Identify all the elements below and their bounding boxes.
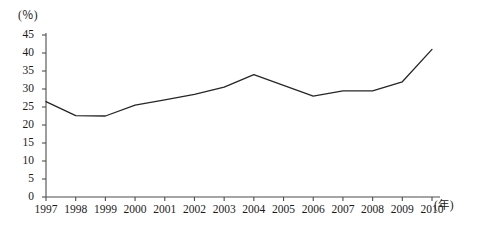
x-tick-label: 2000 [124, 204, 147, 216]
y-axis [42, 33, 46, 197]
chart-plot-area [0, 0, 478, 230]
x-tick-label: 2006 [302, 204, 325, 216]
x-axis [46, 197, 440, 201]
y-tick-label: 30 [12, 83, 34, 95]
y-tick-label: 35 [12, 65, 34, 77]
y-tick-label: 0 [12, 191, 34, 203]
x-tick-label: 2008 [361, 204, 384, 216]
x-tick-label: 2001 [153, 204, 176, 216]
x-tick-label: 2010 [421, 204, 444, 216]
x-tick-label: 1998 [64, 204, 87, 216]
y-tick-label: 15 [12, 137, 34, 149]
x-tick-label: 2002 [183, 204, 206, 216]
y-tick-label: 25 [12, 101, 34, 113]
series-polyline [46, 49, 432, 116]
x-tick-label: 2009 [391, 204, 414, 216]
x-tick-label: 2007 [331, 204, 354, 216]
x-tick-label: 2003 [213, 204, 236, 216]
y-tick-label: 40 [12, 47, 34, 59]
x-tick-label: 1999 [94, 204, 117, 216]
data-series-line [46, 49, 432, 116]
y-tick-label: 10 [12, 155, 34, 167]
x-tick-label: 2005 [272, 204, 295, 216]
x-tick-label: 1997 [35, 204, 58, 216]
x-tick-label: 2004 [242, 204, 265, 216]
y-tick-label: 45 [12, 29, 34, 41]
y-tick-label: 20 [12, 119, 34, 131]
line-chart-figure: (％) (年) 051015202530354045 1997199819992… [0, 0, 478, 230]
y-tick-label: 5 [12, 173, 34, 185]
